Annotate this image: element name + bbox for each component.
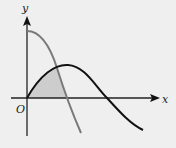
origin-label: O	[16, 103, 25, 116]
function-graph: y x O	[0, 0, 176, 148]
y-axis-label: y	[21, 2, 29, 15]
x-axis-label: x	[162, 93, 169, 106]
